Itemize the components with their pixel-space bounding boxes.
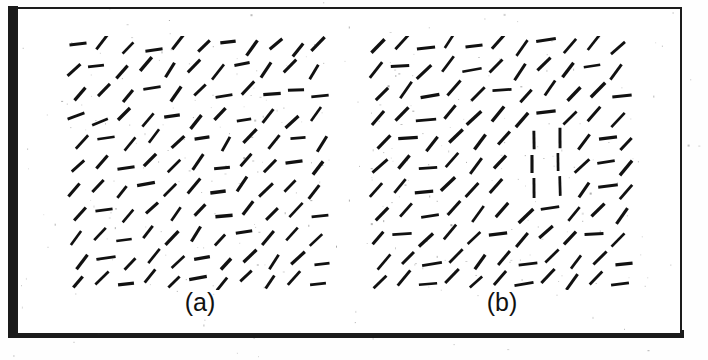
- texture-element: [164, 115, 180, 117]
- texture-element: [371, 39, 384, 52]
- texture-element: [422, 262, 442, 265]
- texture-element: [376, 208, 388, 221]
- texture-element: [612, 95, 631, 97]
- texture-element: [263, 109, 274, 123]
- texture-element: [288, 271, 300, 285]
- texture-element: [237, 177, 247, 192]
- texture-element: [417, 65, 432, 79]
- texture-element: [588, 107, 601, 122]
- texture-element: [311, 37, 324, 51]
- texture-element: [585, 233, 604, 234]
- texture-element: [519, 209, 534, 223]
- texture-element: [545, 81, 555, 96]
- texture-element: [284, 180, 295, 191]
- texture-element: [472, 206, 484, 222]
- texture-element: [317, 136, 327, 152]
- texture-element: [145, 269, 156, 282]
- texture-element: [96, 36, 107, 49]
- texture-element: [243, 129, 256, 143]
- texture-element: [519, 263, 538, 265]
- texture-element: [195, 204, 206, 215]
- texture-element: [462, 68, 481, 71]
- texture-element: [88, 65, 104, 67]
- texture-element: [210, 191, 225, 193]
- texture-element: [68, 113, 85, 119]
- texture-element: [447, 81, 460, 96]
- texture-element: [492, 106, 504, 121]
- texture-element: [449, 249, 462, 263]
- texture-panel-a-canvas: [66, 36, 334, 290]
- texture-element: [172, 256, 185, 268]
- texture-element: [214, 167, 230, 169]
- texture-element: [564, 39, 576, 53]
- texture-element: [611, 42, 625, 54]
- texture-element: [221, 258, 231, 269]
- texture-element: [76, 135, 88, 149]
- texture-element: [98, 84, 110, 96]
- texture-element: [312, 215, 329, 217]
- texture-element: [568, 87, 581, 100]
- texture-element: [68, 184, 79, 197]
- texture-element: [584, 65, 600, 68]
- texture-element: [516, 233, 528, 247]
- texture-element: [116, 239, 131, 241]
- texture-element: [142, 113, 153, 126]
- texture-element: [563, 112, 576, 125]
- texture-element: [446, 153, 459, 167]
- texture-element: [591, 83, 605, 97]
- texture-element: [291, 252, 305, 264]
- scan-speck: [373, 338, 374, 340]
- texture-element: [536, 111, 555, 113]
- texture-element: [268, 135, 279, 149]
- texture-element: [149, 129, 159, 143]
- texture-element: [516, 113, 528, 127]
- texture-element: [394, 179, 405, 193]
- texture-element: [241, 154, 252, 166]
- texture-element: [616, 208, 627, 224]
- texture-element: [520, 90, 531, 103]
- texture-element: [146, 203, 158, 214]
- texture-element: [216, 95, 233, 98]
- texture-element: [68, 64, 81, 76]
- texture-element: [400, 82, 411, 99]
- texture-element: [516, 40, 527, 56]
- texture-element: [96, 257, 115, 260]
- texture-element: [288, 90, 304, 91]
- texture-element: [467, 111, 482, 124]
- texture-element: [270, 39, 283, 49]
- texture-element: [400, 203, 412, 216]
- texture-element: [611, 113, 624, 127]
- figure-root: (a) (b): [0, 0, 708, 360]
- texture-element: [72, 160, 85, 171]
- texture-element: [212, 64, 224, 79]
- texture-element: [415, 191, 433, 193]
- texture-element: [191, 115, 202, 129]
- texture-element: [471, 87, 484, 100]
- texture-element: [262, 231, 274, 245]
- texture-element: [610, 64, 621, 79]
- texture-element: [416, 119, 436, 121]
- texture-element: [289, 203, 302, 217]
- texture-element: [419, 233, 433, 246]
- texture-element: [496, 203, 508, 217]
- scan-speck: [323, 2, 324, 3]
- texture-element: [545, 250, 558, 263]
- texture-element: [489, 233, 507, 235]
- texture-element: [311, 107, 321, 121]
- texture-element: [536, 38, 556, 41]
- texture-element: [311, 95, 328, 97]
- texture-element: [575, 159, 590, 172]
- texture-element: [285, 116, 298, 128]
- texture-element: [125, 258, 136, 270]
- texture-element: [310, 65, 319, 80]
- texture-element: [309, 185, 320, 199]
- scan-speck: [237, 353, 238, 354]
- texture-element: [378, 254, 391, 269]
- texture-element: [593, 252, 606, 265]
- texture-element: [95, 272, 108, 285]
- texture-element: [172, 136, 185, 148]
- texture-element: [75, 88, 86, 101]
- texture-element: [620, 138, 631, 150]
- texture-element: [145, 49, 162, 51]
- texture-element: [77, 255, 88, 270]
